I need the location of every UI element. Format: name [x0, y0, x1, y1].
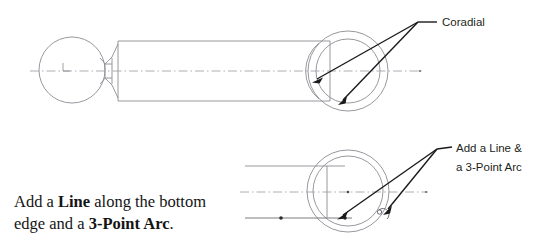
bottom-circle-center-point	[347, 191, 350, 194]
bottom-centerline-end-point	[425, 191, 427, 193]
instruction-l1-bold: Line	[58, 192, 90, 211]
cad-diagram-canvas: Coradial	[0, 0, 537, 246]
add-line-callout-line1: Add a Line &	[456, 142, 522, 154]
instruction-l2-suffix: .	[169, 214, 173, 233]
top-centerline-end-point	[419, 70, 421, 72]
instruction-line-2: edge and a 3-Point Arc.	[14, 214, 174, 233]
technical-drawing-figure: Coradial	[0, 0, 537, 246]
bottom-edge-point-marker-1	[279, 216, 283, 220]
coradial-label: Coradial	[442, 16, 485, 28]
instruction-line-1: Add a Line along the bottom	[14, 192, 206, 211]
add-line-callout-line2: a 3-Point Arc	[456, 161, 522, 173]
instruction-l1-prefix: Add a	[14, 192, 58, 211]
instruction-l2-prefix: edge and a	[14, 214, 89, 233]
instruction-l1-suffix: along the bottom	[90, 192, 206, 211]
instruction-l2-bold: 3-Point Arc	[89, 214, 170, 233]
